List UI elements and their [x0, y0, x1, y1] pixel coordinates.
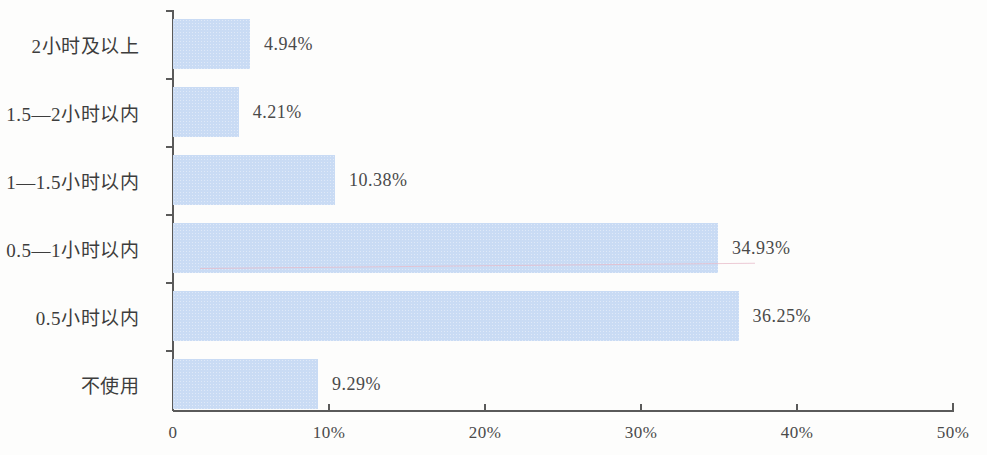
x-axis-tick-label: 10% [313, 423, 346, 443]
bar [173, 223, 718, 273]
bar-value-label: 9.29% [332, 374, 381, 395]
chart-row: 1.5—2小时以内4.21% [173, 78, 963, 146]
plot-area: 2小时及以上4.94%1.5—2小时以内4.21%1—1.5小时以内10.38%… [173, 10, 963, 410]
chart-row: 1—1.5小时以内10.38% [173, 146, 963, 214]
bar-value-label: 10.38% [349, 170, 408, 191]
chart-row: 0.5小时以内36.25% [173, 282, 963, 350]
bar [173, 155, 335, 205]
category-label: 1.5—2小时以内 [6, 99, 139, 126]
x-axis-tick-label: 0 [169, 423, 178, 443]
bar [173, 87, 239, 137]
bar-value-label: 36.25% [753, 306, 812, 327]
category-label: 2小时及以上 [32, 31, 140, 58]
x-axis-tick-label: 20% [469, 423, 502, 443]
category-label: 0.5小时以内 [36, 303, 139, 330]
x-axis-tick-label: 30% [625, 423, 658, 443]
category-label: 不使用 [81, 371, 140, 398]
bar-value-label: 4.94% [264, 34, 313, 55]
bar-chart: 010%20%30%40%50% 2小时及以上4.94%1.5—2小时以内4.2… [0, 0, 987, 455]
bar-value-label: 4.21% [253, 102, 302, 123]
bar [173, 19, 250, 69]
chart-row: 0.5—1小时以内34.93% [173, 214, 963, 282]
bar [173, 359, 318, 409]
x-axis-tick-label: 50% [937, 423, 970, 443]
chart-row: 2小时及以上4.94% [173, 10, 963, 78]
chart-row: 不使用9.29% [173, 350, 963, 418]
category-label: 1—1.5小时以内 [6, 167, 139, 194]
bar [173, 291, 739, 341]
x-axis-tick-label: 40% [781, 423, 814, 443]
category-label: 0.5—1小时以内 [6, 235, 139, 262]
bar-value-label: 34.93% [732, 238, 791, 259]
